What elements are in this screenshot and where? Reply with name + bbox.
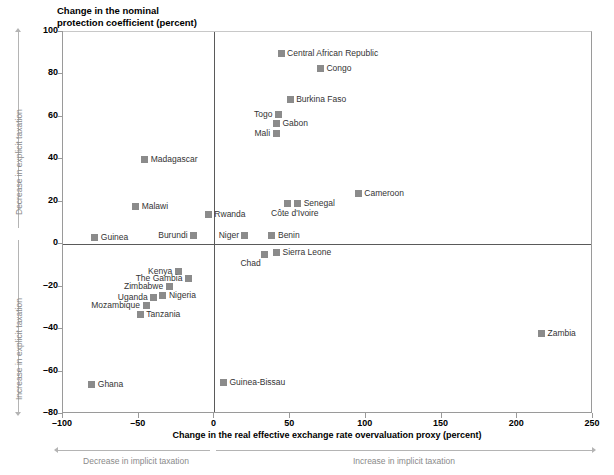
x-tick-mark	[289, 413, 290, 418]
left-arrow-icon	[54, 447, 58, 453]
annotation-increase-explicit-taxation: Increase in explicit taxation	[14, 298, 24, 400]
x-axis-title: Change in the real effective exchange ra…	[62, 430, 592, 440]
x-tick-mark	[213, 413, 214, 418]
x-tick-label: 0	[211, 418, 216, 428]
x-tick-mark	[516, 413, 517, 418]
x-tick-label: 250	[584, 418, 599, 428]
x-tick-mark	[138, 413, 139, 418]
x-tick-label: 150	[433, 418, 448, 428]
x-tick-label: 100	[357, 418, 372, 428]
x-tick-mark	[365, 413, 366, 418]
down-arrow-icon	[15, 412, 21, 416]
decrease-implicit-taxation-line	[58, 450, 210, 451]
annotation-decrease-implicit-taxation: Decrease in implicit taxation	[83, 456, 189, 466]
up-arrow-icon	[15, 28, 21, 32]
increase-implicit-taxation-line	[216, 450, 592, 451]
x-tick-mark	[441, 413, 442, 418]
scatter-chart: Change in the nominal protection coeffic…	[0, 0, 614, 475]
x-tick-mark	[62, 413, 63, 418]
annotation-decrease-explicit-taxation: Decrease in explicit taxation	[14, 109, 24, 215]
right-arrow-icon	[592, 447, 596, 453]
x-axis-ticks: –100–50050100150200250	[0, 0, 614, 475]
x-tick-label: –50	[130, 418, 145, 428]
x-tick-label: –100	[52, 418, 72, 428]
x-tick-label: 200	[509, 418, 524, 428]
x-tick-mark	[592, 413, 593, 418]
annotation-increase-implicit-taxation: Increase in implicit taxation	[353, 456, 455, 466]
x-tick-label: 50	[284, 418, 294, 428]
